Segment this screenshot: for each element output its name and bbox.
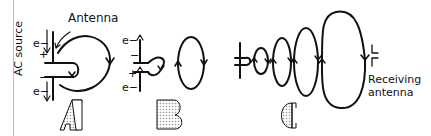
receiving-label-line1: Receiving xyxy=(368,74,421,85)
antenna-label: Antenna xyxy=(68,12,118,24)
panel-a-minus: − xyxy=(39,72,48,83)
panel-c-waves xyxy=(235,12,378,109)
letter-a xyxy=(60,100,82,130)
receiving-label-line2: antenna xyxy=(368,87,413,98)
panel-b-antenna xyxy=(134,35,207,91)
letter-c xyxy=(282,103,297,128)
panel-letters xyxy=(60,100,296,130)
panel-b-plus: + xyxy=(128,68,137,79)
panel-a-electron-bottom: e− xyxy=(33,86,49,97)
panel-b-electron-top: e− xyxy=(122,35,138,46)
diagram-drawing xyxy=(0,0,431,136)
letter-b xyxy=(157,100,182,129)
panel-a-antenna xyxy=(44,30,114,101)
panel-b-minus: − xyxy=(130,50,139,61)
panel-b-electron-bottom: e− xyxy=(122,82,138,93)
ac-source-label: AC source xyxy=(13,21,24,76)
panel-a-plus: + xyxy=(39,49,48,60)
